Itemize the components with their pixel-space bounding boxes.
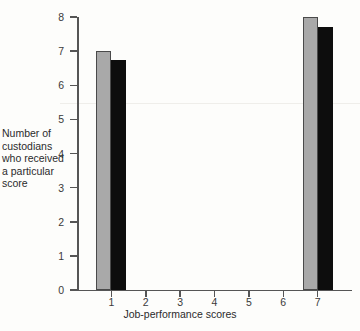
x-tick-label-6: 6 xyxy=(271,296,295,308)
x-axis-title: Job-performance scores xyxy=(0,308,360,320)
y-axis-title-line-1: Number of xyxy=(2,127,68,140)
y-tick-3 xyxy=(70,187,77,189)
y-tick-label-0: 0 xyxy=(34,285,64,295)
y-tick-0 xyxy=(70,289,77,291)
bar-chart-figure: Number of custodians who received a part… xyxy=(0,0,360,331)
bar-gray-score-7 xyxy=(303,17,318,290)
y-tick-1 xyxy=(70,255,77,257)
y-tick-label-2: 2 xyxy=(34,217,64,227)
y-tick-label-6: 6 xyxy=(34,80,64,90)
y-tick-label-7: 7 xyxy=(34,46,64,56)
y-tick-label-4: 4 xyxy=(34,149,64,159)
y-tick-7 xyxy=(70,50,77,52)
bar-black-score-7 xyxy=(318,27,333,290)
y-tick-8 xyxy=(70,16,77,18)
y-tick-2 xyxy=(70,221,77,223)
bar-black-score-1 xyxy=(111,60,126,290)
y-tick-label-1: 1 xyxy=(34,251,64,261)
plot-area xyxy=(77,17,352,290)
bar-gray-score-1 xyxy=(96,51,111,290)
x-tick-label-2: 2 xyxy=(134,296,158,308)
x-tick-label-7: 7 xyxy=(306,296,330,308)
x-tick-label-4: 4 xyxy=(203,296,227,308)
y-tick-label-8: 8 xyxy=(34,12,64,22)
y-tick-label-5: 5 xyxy=(34,114,64,124)
y-tick-label-3: 3 xyxy=(34,183,64,193)
y-tick-6 xyxy=(70,85,77,87)
y-tick-5 xyxy=(70,119,77,121)
y-tick-4 xyxy=(70,153,77,155)
x-tick-label-3: 3 xyxy=(168,296,192,308)
x-tick-label-5: 5 xyxy=(237,296,261,308)
y-axis-title-line-4: a particular xyxy=(2,165,68,178)
x-tick-label-1: 1 xyxy=(99,296,123,308)
